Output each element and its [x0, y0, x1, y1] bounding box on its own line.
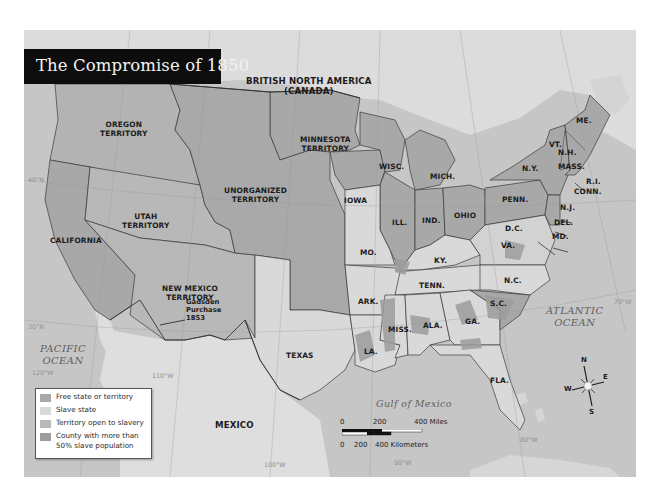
label-tenn: TENN.: [419, 282, 445, 291]
compass-e: E: [603, 373, 608, 381]
label-line: TERRITORY: [122, 222, 170, 231]
legend-label-group: County with more than 50% slave populati…: [56, 431, 139, 451]
label-line: TERRITORY: [100, 130, 148, 139]
scale-bar: 0 200 400 Miles 0 200 400 Kilometers: [340, 418, 465, 454]
scale-miles-200: 200: [373, 418, 386, 426]
label-ala: ALA.: [423, 322, 443, 331]
label-conn: CONN.: [574, 188, 602, 197]
label-ga: GA.: [465, 318, 480, 327]
label-del: DEL.: [554, 219, 573, 228]
label-miss: MISS.: [388, 326, 412, 335]
legend-label: 50% slave population: [56, 441, 139, 451]
label-ark: ARK.: [358, 298, 379, 307]
compass-n: N: [581, 356, 587, 364]
label-mass: MASS.: [558, 163, 585, 172]
label-wisc: WISC.: [379, 163, 404, 172]
label-oregon-territory: OREGON TERRITORY: [100, 121, 148, 138]
label-unorganized-territory: UNORGANIZED TERRITORY: [224, 187, 287, 204]
label-line: TERRITORY: [224, 196, 287, 205]
label-line: ATLANTIC: [546, 305, 603, 317]
label-iowa: IOWA: [344, 197, 367, 206]
label-sc: S.C.: [490, 300, 507, 309]
label-pacific-ocean: PACIFIC OCEAN: [40, 343, 86, 366]
compass-icon: [568, 356, 608, 416]
label-canada: BRITISH NORTH AMERICA (CANADA): [246, 76, 372, 96]
coord-40n: 40°N: [28, 176, 44, 183]
legend-item-slave: Slave state: [40, 405, 96, 415]
scale-km-200: 200: [354, 441, 367, 449]
label-line: Purchase: [186, 306, 221, 314]
legend-swatch-slave: [40, 407, 51, 415]
label-ky: KY.: [434, 257, 447, 266]
scale-km-0: 0: [340, 441, 344, 449]
label-minnesota-territory: MINNESOTA TERRITORY: [300, 136, 351, 153]
label-ri: R.I.: [586, 178, 601, 187]
label-fla: FLA.: [490, 377, 509, 386]
label-nj: N.J.: [560, 204, 575, 213]
scale-bar-graphic: [342, 429, 424, 437]
scale-miles-400: 400 Miles: [414, 418, 447, 426]
label-ind: IND.: [422, 217, 440, 226]
label-line: OCEAN: [546, 317, 603, 329]
label-va: VA.: [501, 242, 515, 251]
label-penn: PENN.: [502, 196, 528, 205]
coord-70w: 70°W: [614, 298, 631, 305]
coord-110w: 110°W: [152, 372, 173, 379]
legend-label: Slave state: [56, 405, 96, 415]
label-gulf-of-mexico: Gulf of Mexico: [376, 398, 452, 410]
label-mich: MICH.: [430, 173, 455, 182]
label-atlantic-ocean: ATLANTIC OCEAN: [546, 305, 603, 328]
label-nh: N.H.: [558, 149, 577, 158]
legend-swatch-free: [40, 394, 51, 402]
label-la: LA.: [364, 348, 378, 357]
scale-km-400: 400 Kilometers: [375, 441, 428, 449]
label-ohio: OHIO: [454, 212, 476, 221]
label-gadsden-purchase: Gadsden Purchase 1853: [186, 298, 221, 322]
coord-100w: 100°W: [264, 461, 285, 468]
compass-rose: N E S W: [568, 356, 608, 416]
legend-swatch-slave-county: [40, 433, 51, 441]
label-line: Gadsden: [186, 298, 221, 306]
map-title: The Compromise of 1850: [36, 56, 249, 75]
scale-miles-0: 0: [340, 418, 344, 426]
label-nc: N.C.: [504, 277, 522, 286]
compass-w: W: [564, 385, 572, 393]
label-texas: TEXAS: [286, 352, 314, 361]
label-ill: ILL.: [392, 219, 408, 228]
legend-label: Territory open to slavery: [56, 418, 144, 428]
legend-item-free: Free state or territory: [40, 392, 133, 402]
legend-item-slave-county: County with more than 50% slave populati…: [40, 431, 139, 451]
label-canada-line1: BRITISH NORTH AMERICA: [246, 76, 372, 86]
coord-90w: 90°W: [394, 459, 411, 466]
label-mo: MO.: [360, 249, 377, 258]
coord-30n: 30°N: [28, 323, 44, 330]
legend-swatch-open-territory: [40, 420, 51, 428]
label-utah-territory: UTAH TERRITORY: [122, 213, 170, 230]
label-line: OCEAN: [40, 355, 86, 367]
legend-label: Free state or territory: [56, 392, 133, 402]
label-canada-line2: (CANADA): [246, 86, 372, 96]
coord-80w: 80°W: [520, 436, 537, 443]
label-ny: N.Y.: [522, 165, 539, 174]
label-md: MD.: [552, 233, 569, 242]
legend-label: County with more than: [56, 431, 139, 441]
map-legend: Free state or territory Slave state Terr…: [35, 388, 152, 459]
label-line: TERRITORY: [300, 145, 351, 154]
legend-item-open-territory: Territory open to slavery: [40, 418, 144, 428]
label-mexico: MEXICO: [215, 420, 254, 430]
label-california: CALIFORNIA: [50, 237, 102, 246]
label-dc: D.C.: [505, 225, 523, 234]
label-line: 1853: [186, 314, 221, 322]
label-me: ME.: [576, 117, 592, 126]
map-title-box: The Compromise of 1850: [24, 49, 221, 84]
coord-120w: 120°W: [32, 369, 53, 376]
compass-s: S: [589, 408, 594, 416]
label-line: PACIFIC: [40, 343, 86, 355]
